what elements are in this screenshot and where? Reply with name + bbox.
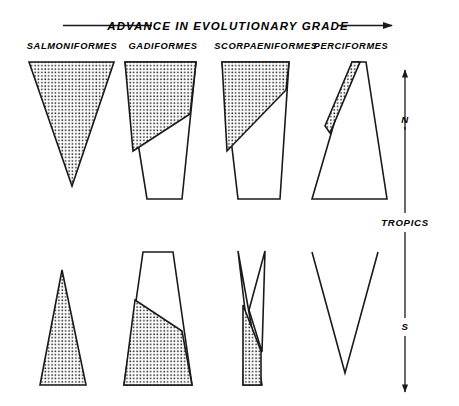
gadiformes-north-stipple [125, 62, 196, 151]
north-row-shapes [29, 62, 387, 199]
salmoniformes-south-stipple [40, 270, 86, 385]
header-axis-label: ADVANCE IN EVOLUTIONARY GRADE [106, 20, 348, 32]
shape-south-perciformes [312, 252, 378, 373]
latitude-axis-group: N TROPICS S [381, 70, 429, 392]
shape-north-perciformes [312, 62, 387, 199]
south-row-shapes [40, 251, 378, 385]
taxon-label-row: SALMONIFORMES GADIFORMES SCORPAENIFORMES… [27, 41, 389, 51]
scorpaeniformes-north-stipple [222, 62, 289, 151]
salmoniformes-north-stipple [29, 62, 114, 186]
shape-north-gadiformes [125, 62, 196, 199]
shape-north-salmoniformes [29, 62, 114, 186]
taxon-label-salmoniformes: SALMONIFORMES [27, 41, 118, 51]
taxon-label-perciformes: PERCIFORMES [314, 41, 389, 51]
shape-south-salmoniformes [40, 270, 86, 385]
header-axis-group: ADVANCE IN EVOLUTIONARY GRADE [63, 20, 392, 32]
shape-north-scorpaeniformes [222, 62, 289, 199]
axis-label-north: N [401, 114, 409, 125]
taxon-label-gadiformes: GADIFORMES [128, 41, 197, 51]
perciformes-south-outline [312, 252, 378, 373]
shape-south-gadiformes [124, 252, 192, 385]
axis-label-south: S [401, 321, 408, 332]
evolutionary-grade-figure: ADVANCE IN EVOLUTIONARY GRADE SALMONIFOR… [0, 0, 459, 406]
axis-label-tropics: TROPICS [381, 217, 429, 228]
shape-south-scorpaeniformes [238, 251, 265, 385]
taxon-label-scorpaeniformes: SCORPAENIFORMES [214, 41, 318, 51]
perciformes-north-stipple [325, 62, 360, 133]
figure-canvas: ADVANCE IN EVOLUTIONARY GRADE SALMONIFOR… [0, 0, 459, 406]
